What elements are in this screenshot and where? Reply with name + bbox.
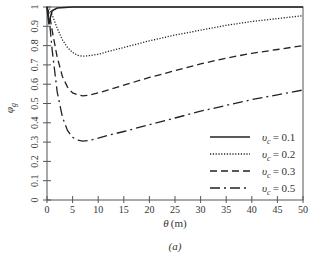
series-line-2 <box>47 7 303 56</box>
y-tick-label: 0.3 <box>29 136 40 149</box>
y-tick-label: 0.6 <box>29 78 40 91</box>
legend-label: υc= 0.2 <box>262 148 295 163</box>
y-tick-label: 0.9 <box>29 20 40 33</box>
x-tick-label: 45 <box>272 204 282 215</box>
x-tick-label: 25 <box>170 204 180 215</box>
legend-label: υc= 0.3 <box>262 165 296 180</box>
x-axis-label: θ(m) <box>163 217 187 230</box>
y-axis-label: φg <box>3 103 18 113</box>
x-tick-label: 15 <box>119 204 129 215</box>
series-line-4 <box>47 7 303 141</box>
y-tick-label: 0.2 <box>29 155 40 168</box>
x-tick-label: 20 <box>144 204 154 215</box>
series-layer <box>47 7 303 141</box>
y-tick-label: 1 <box>29 5 40 10</box>
x-tick-label: 10 <box>93 204 103 215</box>
x-tick-label: 35 <box>221 204 231 215</box>
y-tick-label: 0.8 <box>29 39 40 52</box>
x-tick-label: 5 <box>70 204 75 215</box>
x-tick-label: 30 <box>196 204 206 215</box>
series-line-1 <box>47 7 303 24</box>
legend-label: υc= 0.5 <box>262 182 296 197</box>
legend: υc= 0.1υc= 0.2υc= 0.3υc= 0.5 <box>210 131 296 197</box>
y-tick-label: 0 <box>29 198 40 203</box>
x-tick-label: 40 <box>247 204 257 215</box>
y-tick-label: 0.5 <box>29 97 40 110</box>
x-tick-label: 0 <box>45 204 50 215</box>
y-tick-label: 0.1 <box>29 174 40 187</box>
x-axis-ticks: 05101520253035404550 <box>45 196 309 215</box>
legend-label: υc= 0.1 <box>262 131 295 146</box>
line-chart: 05101520253035404550 00.10.20.30.40.50.6… <box>0 0 318 258</box>
x-tick-label: 50 <box>298 204 308 215</box>
panel-caption: (a) <box>169 240 182 253</box>
y-tick-label: 0.4 <box>29 117 40 130</box>
y-axis-ticks: 00.10.20.30.40.50.60.70.80.91 <box>29 5 51 203</box>
y-tick-label: 0.7 <box>29 59 40 72</box>
